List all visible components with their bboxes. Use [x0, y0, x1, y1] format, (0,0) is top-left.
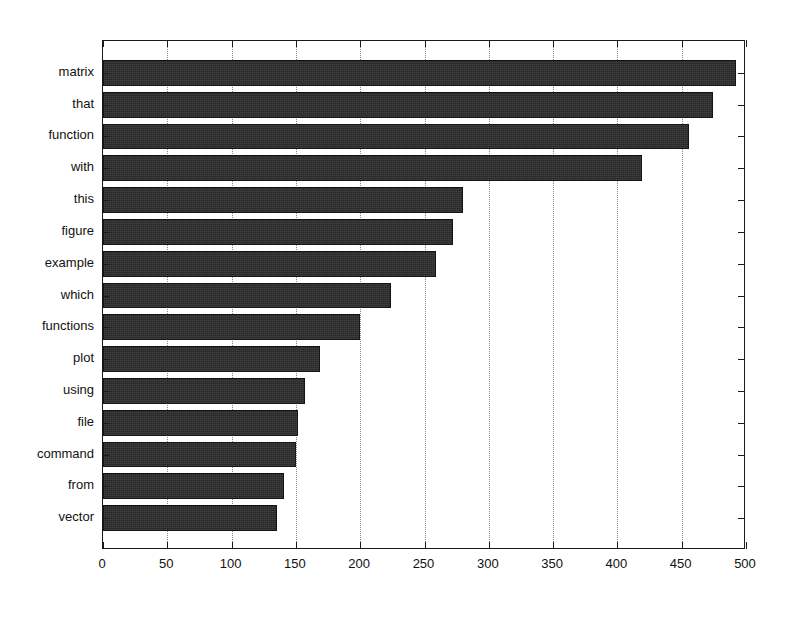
bar-from — [103, 473, 284, 499]
y-tick-label-example: example — [0, 256, 94, 270]
bar-that — [103, 92, 713, 118]
y-tick-right — [738, 232, 745, 233]
bar-vector — [103, 505, 277, 531]
bar-row — [103, 439, 744, 471]
x-tick — [103, 542, 104, 549]
bar-with — [103, 155, 642, 181]
y-tick — [102, 73, 109, 74]
x-tick-top — [167, 40, 168, 47]
y-tick-label-which: which — [0, 288, 94, 302]
x-tick-label: 400 — [586, 556, 646, 571]
y-tick-right — [738, 105, 745, 106]
y-tick — [102, 391, 109, 392]
y-tick-label-command: command — [0, 447, 94, 461]
y-tick-label-using: using — [0, 383, 94, 397]
x-tick — [232, 542, 233, 549]
plot-area — [102, 40, 745, 549]
x-tick-label: 150 — [265, 556, 325, 571]
x-tick — [682, 542, 683, 549]
y-tick-label-plot: plot — [0, 351, 94, 365]
bar-using — [103, 378, 305, 404]
x-tick-top — [489, 40, 490, 47]
y-tick-right — [738, 200, 745, 201]
y-tick-right — [738, 359, 745, 360]
bar-row — [103, 407, 744, 439]
bar-row — [103, 184, 744, 216]
y-tick-label-that: that — [0, 97, 94, 111]
x-tick — [489, 542, 490, 549]
bar-functions — [103, 314, 360, 340]
y-tick — [102, 486, 109, 487]
x-tick-top — [360, 40, 361, 47]
x-tick — [617, 542, 618, 549]
y-tick — [102, 200, 109, 201]
y-tick-label-vector: vector — [0, 510, 94, 524]
bar-row — [103, 502, 744, 534]
x-tick-label: 200 — [329, 556, 389, 571]
y-tick — [102, 518, 109, 519]
x-tick-top — [553, 40, 554, 47]
bar-row — [103, 89, 744, 121]
y-tick-right — [738, 73, 745, 74]
x-tick-label: 500 — [715, 556, 775, 571]
y-tick — [102, 455, 109, 456]
x-tick-top — [682, 40, 683, 47]
y-tick — [102, 423, 109, 424]
y-tick-label-figure: figure — [0, 224, 94, 238]
bar-this — [103, 187, 463, 213]
bar-row — [103, 248, 744, 280]
bar-plot — [103, 346, 320, 372]
x-tick-label: 450 — [651, 556, 711, 571]
y-tick-label-with: with — [0, 160, 94, 174]
x-tick-top — [232, 40, 233, 47]
y-tick-right — [738, 327, 745, 328]
y-tick — [102, 296, 109, 297]
bar-row — [103, 216, 744, 248]
bar-row — [103, 470, 744, 502]
bar-matrix — [103, 60, 736, 86]
bar-row — [103, 375, 744, 407]
y-tick — [102, 264, 109, 265]
y-tick-label-this: this — [0, 192, 94, 206]
y-tick-right — [738, 391, 745, 392]
bar-figure — [103, 219, 453, 245]
bar-function — [103, 124, 689, 150]
y-tick — [102, 136, 109, 137]
y-tick-right — [738, 168, 745, 169]
y-tick — [102, 327, 109, 328]
x-tick-top — [296, 40, 297, 47]
bar-row — [103, 121, 744, 153]
y-tick — [102, 232, 109, 233]
bar-which — [103, 283, 391, 309]
x-tick-top — [746, 40, 747, 47]
bar-example — [103, 251, 436, 277]
bar-row — [103, 311, 744, 343]
x-tick-label: 0 — [72, 556, 132, 571]
y-tick — [102, 105, 109, 106]
x-tick-top — [425, 40, 426, 47]
y-tick-label-functions: functions — [0, 319, 94, 333]
y-tick-right — [738, 264, 745, 265]
bar-command — [103, 442, 296, 468]
x-tick — [746, 542, 747, 549]
y-tick-label-function: function — [0, 128, 94, 142]
y-tick-right — [738, 455, 745, 456]
y-tick-right — [738, 136, 745, 137]
y-axis-labels: matrixthatfunctionwiththisfigureexamplew… — [0, 40, 102, 549]
y-tick-right — [738, 518, 745, 519]
bar-file — [103, 410, 298, 436]
y-tick-label-from: from — [0, 478, 94, 492]
y-tick-right — [738, 296, 745, 297]
x-tick-label: 50 — [136, 556, 196, 571]
bar-row — [103, 57, 744, 89]
x-tick-label: 300 — [458, 556, 518, 571]
x-tick — [167, 542, 168, 549]
x-tick — [553, 542, 554, 549]
x-tick-top — [617, 40, 618, 47]
bar-series — [103, 41, 744, 548]
y-tick — [102, 359, 109, 360]
x-tick-label: 350 — [522, 556, 582, 571]
y-tick-right — [738, 423, 745, 424]
bar-row — [103, 343, 744, 375]
y-tick — [102, 168, 109, 169]
